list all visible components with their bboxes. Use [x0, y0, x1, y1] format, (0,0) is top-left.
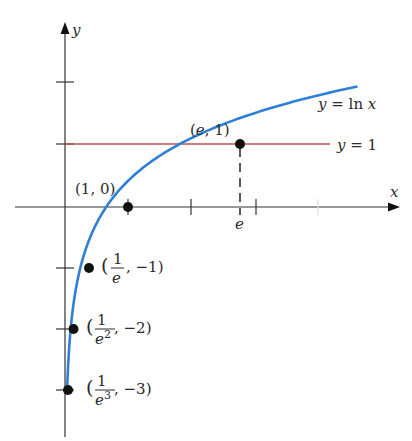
x-axis-label: x — [390, 183, 399, 201]
point-1-0 — [123, 202, 133, 212]
horizontal-line-label: y = 1 — [336, 136, 377, 154]
point-e-1-label: (e, 1) — [190, 121, 230, 139]
axes — [15, 22, 400, 437]
svg-text:3: 3 — [104, 389, 111, 402]
svg-text:e: e — [95, 391, 104, 409]
e-tick-label: e — [235, 215, 244, 233]
point-1e2-neg2 — [69, 324, 79, 334]
svg-text:, −2): , −2) — [114, 319, 152, 337]
point-1-0-label: (1, 0) — [75, 180, 115, 198]
point-1e-neg1 — [84, 263, 94, 273]
svg-text:, −3): , −3) — [114, 380, 152, 398]
svg-text:(: ( — [86, 315, 93, 337]
svg-text:e: e — [95, 330, 104, 348]
x-axis-arrow-icon — [388, 203, 400, 212]
ln-curve-label: y = ln x — [317, 95, 377, 113]
svg-text:e: e — [112, 269, 121, 287]
point-1e3-neg3-label: ( 1 e 3 , −3) — [86, 372, 152, 409]
point-1e3-neg3 — [63, 385, 73, 395]
point-1e-neg1-label: ( 1 e , −1) — [101, 250, 164, 287]
svg-text:1: 1 — [97, 372, 107, 390]
y-axis-label: y — [71, 21, 81, 39]
y-axis-arrow-icon — [61, 22, 70, 34]
ln-graph-figure: y x e (1, 0) (e, 1) y = ln x y = 1 ( 1 e… — [0, 0, 412, 441]
point-1e2-neg2-label: ( 1 e 2 , −2) — [86, 311, 152, 348]
svg-text:2: 2 — [104, 328, 111, 341]
svg-text:1: 1 — [97, 311, 107, 329]
point-e-1 — [235, 139, 245, 149]
svg-text:(: ( — [86, 376, 93, 398]
svg-text:, −1): , −1) — [126, 258, 164, 276]
svg-text:(: ( — [101, 254, 108, 276]
svg-text:1: 1 — [113, 250, 123, 268]
